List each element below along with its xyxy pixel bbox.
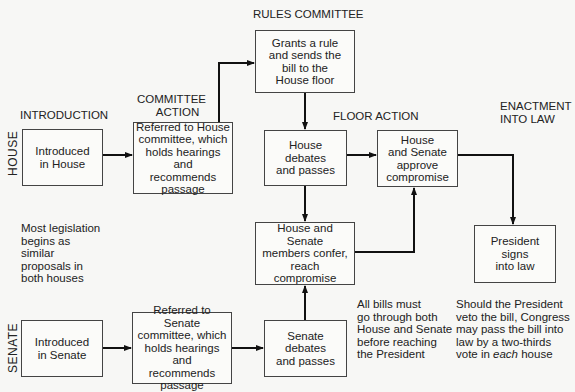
flow-arrows	[0, 0, 575, 392]
arrow-approve-to-president	[458, 155, 513, 224]
arrow-committee-to-rules	[219, 63, 254, 122]
arrow-conference-to-approve	[355, 188, 414, 252]
